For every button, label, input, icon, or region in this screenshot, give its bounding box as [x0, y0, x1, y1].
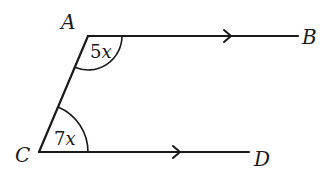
angle-label-c: 7x — [54, 128, 76, 149]
point-label-d: D — [253, 147, 270, 171]
angle-label-a: 5x — [90, 41, 112, 62]
point-label-c: C — [15, 143, 30, 167]
point-label-a: A — [59, 10, 75, 34]
point-label-b: B — [301, 25, 317, 49]
parallel-lines-diagram: A B C D 5x 7x — [0, 0, 332, 182]
